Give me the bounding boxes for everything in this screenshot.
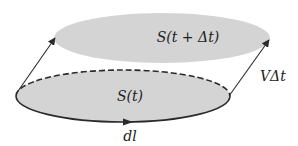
label-displacement: VΔt [260,68,286,84]
label-line-element: dl [123,128,136,144]
label-surface-later: S(t + Δt) [157,29,220,45]
moving-surface-diagram: S(t + Δt) S(t) VΔt dl [0,0,298,146]
label-surface-now: S(t) [117,88,143,104]
